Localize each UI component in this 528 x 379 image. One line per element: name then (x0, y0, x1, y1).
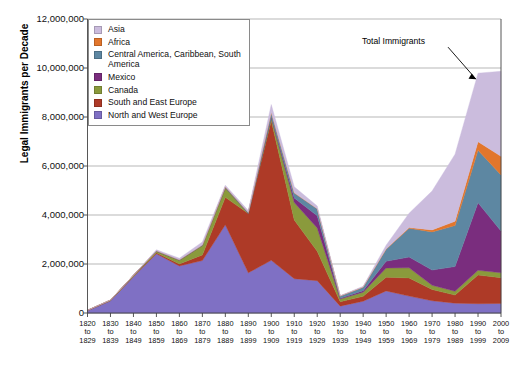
legend-swatch (94, 51, 102, 59)
annotation-arrowhead (469, 74, 477, 80)
legend-label: Canada (108, 85, 138, 95)
legend-swatch (94, 111, 102, 119)
legend-swatch (94, 38, 102, 46)
legend-item[interactable]: North and West Europe (94, 110, 244, 120)
legend-item[interactable]: Canada (94, 85, 244, 95)
legend-item[interactable]: Asia (94, 24, 244, 34)
legend-label: North and West Europe (108, 110, 198, 120)
legend-swatch (94, 26, 102, 34)
legend-swatch (94, 73, 102, 81)
legend-item[interactable]: Mexico (94, 72, 244, 82)
legend-label: Africa (108, 37, 130, 47)
legend-swatch (94, 99, 102, 107)
total-immigrants-annotation: Total Immigrants (362, 36, 425, 46)
legend-label: Central America, Caribbean, South Americ… (108, 49, 244, 69)
legend-label: Asia (108, 24, 125, 34)
legend-item[interactable]: Africa (94, 37, 244, 47)
legend-item[interactable]: South and East Europe (94, 97, 244, 107)
x-tick-label: 2000to2009 (484, 320, 518, 345)
chart-legend: AsiaAfricaCentral America, Caribbean, So… (88, 19, 250, 126)
legend-label: South and East Europe (108, 97, 197, 107)
legend-item[interactable]: Central America, Caribbean, South Americ… (94, 49, 244, 69)
legend-label: Mexico (108, 72, 135, 82)
immigration-stacked-area-chart: Legal Immigrants per Decade 02,000,0004,… (0, 0, 528, 379)
legend-swatch (94, 86, 102, 94)
